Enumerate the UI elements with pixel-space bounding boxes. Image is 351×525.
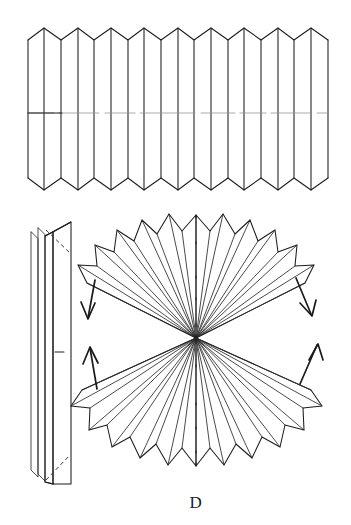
figure-caption: D (190, 493, 203, 512)
pleated-sheet (28, 28, 328, 190)
strip-bottom-edge (45, 482, 53, 484)
rosette-lower-outline-left (71, 338, 196, 466)
rosette-lower-outline (196, 338, 322, 466)
arrow-right-up (300, 344, 323, 384)
rosette-star (71, 214, 322, 466)
folded-strip (31, 222, 71, 484)
strip-top-edge (45, 222, 71, 236)
figure-page: D (0, 0, 351, 525)
strip-fold-mark-bottom (46, 455, 70, 480)
strip-layer-back (31, 232, 38, 477)
strip-front-face (45, 232, 53, 484)
arrow-right-down (296, 278, 316, 316)
arrow-left-up (83, 347, 98, 389)
origami-figure: D (0, 0, 351, 525)
strip-side-face (53, 222, 71, 484)
pleat-crease-lines (28, 28, 328, 190)
strip-layer-middle (38, 228, 45, 481)
